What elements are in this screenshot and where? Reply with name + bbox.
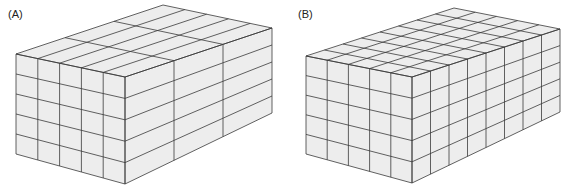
block-stacks-diagram (0, 0, 568, 193)
block-stack-b (306, 8, 560, 183)
block-stack-a (16, 5, 272, 184)
front-face (306, 56, 412, 183)
